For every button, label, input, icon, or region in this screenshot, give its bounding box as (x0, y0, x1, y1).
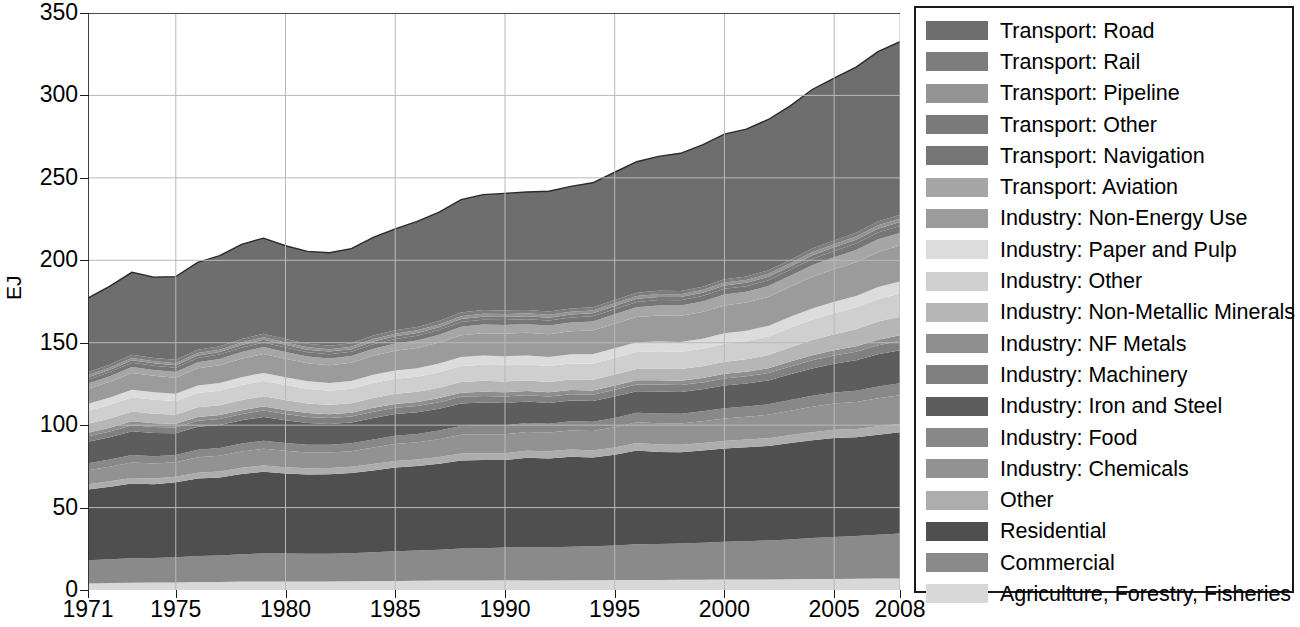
x-tick-label: 1995 (575, 598, 655, 621)
legend-swatch (926, 584, 988, 603)
legend-swatch (926, 365, 988, 384)
y-tick-mark (80, 13, 89, 14)
legend-label: Industry: Non-Energy Use (1000, 207, 1247, 229)
legend-label: Residential (1000, 520, 1106, 542)
x-tick-mark (286, 590, 287, 598)
plot-area (88, 13, 900, 590)
y-tick-label: 250 (20, 166, 78, 189)
y-tick-mark (80, 260, 89, 261)
x-tick-label: 1990 (465, 598, 545, 621)
legend-swatch (926, 522, 988, 541)
x-tick-mark (900, 590, 901, 598)
y-tick-label: 350 (20, 1, 78, 24)
x-tick-mark (505, 590, 506, 598)
legend-item[interactable]: Industry: NF Metals (926, 328, 1292, 359)
y-axis: 050100150200250300350 (0, 0, 78, 627)
legend-item[interactable]: Commercial (926, 547, 1292, 578)
x-tick-mark (834, 590, 835, 598)
legend-item[interactable]: Transport: Pipeline (926, 78, 1292, 109)
x-tick-label: 1971 (48, 598, 128, 621)
legend-label: Industry: Chemicals (1000, 458, 1189, 480)
legend-item[interactable]: Agriculture, Forestry, Fisheries (926, 578, 1292, 609)
legend-label: Transport: Aviation (1000, 176, 1178, 198)
legend-label: Agriculture, Forestry, Fisheries (1000, 583, 1291, 605)
legend-item[interactable]: Industry: Other (926, 265, 1292, 296)
legend-item[interactable]: Transport: Aviation (926, 171, 1292, 202)
chart-page: EJ 050100150200250300350 197119751980198… (0, 0, 1300, 627)
x-tick-label: 2000 (684, 598, 764, 621)
y-tick-mark (80, 178, 89, 179)
x-tick-mark (615, 590, 616, 598)
legend-item[interactable]: Industry: Non-Energy Use (926, 203, 1292, 234)
legend-swatch (926, 21, 988, 40)
x-tick-mark (176, 590, 177, 598)
y-tick-label: 150 (20, 331, 78, 354)
x-tick-mark (395, 590, 396, 598)
legend-swatch (926, 553, 988, 572)
x-tick-label: 1985 (355, 598, 435, 621)
legend-swatch (926, 178, 988, 197)
x-tick-mark (88, 590, 89, 598)
y-tick-label: 50 (20, 496, 78, 519)
legend-label: Industry: Iron and Steel (1000, 395, 1222, 417)
legend-swatch (926, 115, 988, 134)
legend-item[interactable]: Industry: Iron and Steel (926, 391, 1292, 422)
legend-swatch (926, 240, 988, 259)
legend-swatch (926, 459, 988, 478)
legend-swatch (926, 146, 988, 165)
legend-item[interactable]: Transport: Rail (926, 46, 1292, 77)
legend-item[interactable]: Transport: Road (926, 15, 1292, 46)
legend-label: Industry: Other (1000, 270, 1142, 292)
legend-label: Transport: Pipeline (1000, 82, 1180, 104)
legend-item[interactable]: Industry: Paper and Pulp (926, 234, 1292, 265)
legend-label: Commercial (1000, 552, 1115, 574)
legend-swatch (926, 397, 988, 416)
y-tick-label: 200 (20, 248, 78, 271)
legend-item[interactable]: Industry: Machinery (926, 359, 1292, 390)
legend-item[interactable]: Industry: Food (926, 422, 1292, 453)
stacked-area-chart: EJ 050100150200250300350 197119751980198… (0, 0, 910, 627)
legend-item[interactable]: Other (926, 484, 1292, 515)
legend-item[interactable]: Industry: Non-Metallic Minerals (926, 297, 1292, 328)
legend-swatch (926, 209, 988, 228)
y-tick-label: 300 (20, 83, 78, 106)
legend-item[interactable]: Transport: Navigation (926, 140, 1292, 171)
y-tick-mark (80, 425, 89, 426)
legend-item[interactable]: Transport: Other (926, 109, 1292, 140)
legend-label: Industry: Machinery (1000, 364, 1188, 386)
legend-label: Industry: Paper and Pulp (1000, 239, 1237, 261)
legend-swatch (926, 303, 988, 322)
y-tick-mark (80, 343, 89, 344)
legend-swatch (926, 84, 988, 103)
legend-label: Transport: Navigation (1000, 145, 1205, 167)
legend-label: Industry: Non-Metallic Minerals (1000, 301, 1295, 323)
legend-label: Industry: Food (1000, 427, 1137, 449)
legend-swatch (926, 272, 988, 291)
x-tick-mark (724, 590, 725, 598)
chart-legend: Transport: RoadTransport: RailTransport:… (914, 6, 1294, 593)
legend-label: Transport: Other (1000, 114, 1157, 136)
legend-item[interactable]: Industry: Chemicals (926, 453, 1292, 484)
x-tick-label: 1975 (136, 598, 216, 621)
y-tick-label: 100 (20, 413, 78, 436)
legend-label: Transport: Road (1000, 20, 1155, 42)
plot-svg (88, 13, 900, 590)
legend-swatch (926, 491, 988, 510)
y-tick-mark (80, 508, 89, 509)
legend-swatch (926, 428, 988, 447)
legend-swatch (926, 52, 988, 71)
legend-item[interactable]: Residential (926, 516, 1292, 547)
x-tick-label: 1980 (246, 598, 326, 621)
legend-label: Other (1000, 489, 1054, 511)
legend-swatch (926, 334, 988, 353)
legend-label: Transport: Rail (1000, 51, 1140, 73)
y-tick-mark (80, 95, 89, 96)
legend-label: Industry: NF Metals (1000, 333, 1186, 355)
